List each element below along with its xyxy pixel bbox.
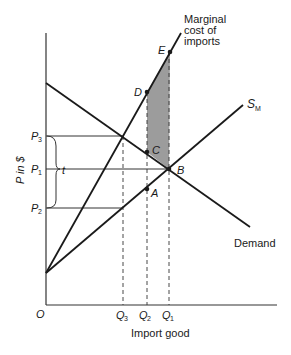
label-d: D [134, 86, 142, 98]
point-e [168, 50, 173, 55]
demand-label: Demand [234, 237, 276, 249]
q3-label-sub: 3 [124, 315, 128, 322]
p2-label-sub: 2 [38, 208, 42, 215]
p3-label-sub: 3 [38, 136, 42, 143]
origin-label: O [36, 308, 45, 320]
y-axis-label: P in $ [14, 155, 26, 184]
label-c: C [152, 144, 160, 156]
label-a: A [150, 187, 158, 199]
point-c [145, 150, 150, 155]
q1-label-sub: 1 [170, 315, 174, 322]
supply-label-subscript: M [255, 105, 261, 112]
point-b [167, 167, 172, 172]
supply-curve-sm [46, 105, 243, 273]
supply-label: S [247, 97, 255, 111]
x-axis-label: Import good [131, 327, 190, 339]
optimal-tariff-diagram: t A B C D E Marginal cost of imports S M… [0, 0, 291, 355]
p1-label-sub: 1 [38, 169, 42, 176]
point-a [145, 187, 150, 192]
tariff-label: t [62, 164, 66, 176]
tariff-brace [47, 136, 60, 208]
q2-label-sub: 2 [147, 315, 151, 322]
point-d [145, 90, 150, 95]
marginal-cost-label-3: imports [184, 35, 221, 47]
label-b: B [177, 164, 184, 176]
label-e: E [158, 44, 166, 56]
